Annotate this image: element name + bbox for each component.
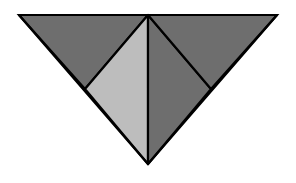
triangle-dissection-diagram [0, 0, 296, 183]
triangle-regions [19, 15, 277, 164]
